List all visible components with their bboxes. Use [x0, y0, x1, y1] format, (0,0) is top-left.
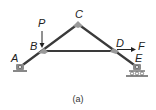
load-p-arrow [40, 31, 45, 48]
pin-icon [18, 65, 21, 68]
label-b: B [30, 40, 37, 52]
label-d: D [116, 37, 124, 49]
truss-diagram: A B C D E P F (a) [0, 0, 156, 110]
roller-icon [130, 72, 133, 75]
arrow-down-icon [40, 43, 45, 48]
joint-b-plate [38, 48, 48, 54]
roller-support-e [126, 64, 148, 76]
figure-caption: (a) [73, 94, 84, 104]
label-f: F [138, 40, 146, 52]
label-e: E [135, 52, 143, 64]
roller-pin-icon [135, 65, 138, 68]
roller-icon [135, 72, 138, 75]
member-c-e [78, 24, 137, 67]
label-a: A [10, 52, 18, 64]
roller-icon [140, 72, 143, 75]
joint-plates [38, 21, 119, 54]
pin-support-a [13, 64, 27, 71]
label-c: C [75, 8, 83, 20]
member-a-c [20, 24, 78, 67]
label-p: P [38, 17, 46, 29]
